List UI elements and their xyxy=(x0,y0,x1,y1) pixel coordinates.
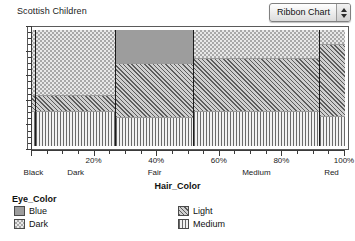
mosaic-plot[interactable] xyxy=(31,30,345,146)
x-axis-tick xyxy=(266,150,267,154)
x-axis-tick xyxy=(250,150,251,154)
y-axis-tick xyxy=(28,88,32,89)
x-axis xyxy=(31,150,345,156)
chart-type-value: Ribbon Chart xyxy=(270,4,336,21)
mosaic-column-dark[interactable] xyxy=(36,30,116,146)
y-axis xyxy=(27,26,32,150)
chart-type-stepper[interactable] xyxy=(336,4,350,21)
legend-label-light: Light xyxy=(193,206,213,216)
legend-column-right: LightMedium xyxy=(178,205,225,231)
y-axis-tick xyxy=(28,38,32,39)
x-axis-tick xyxy=(109,150,110,154)
mosaic-cell-dark-medium[interactable] xyxy=(36,112,115,146)
x-axis-tick xyxy=(62,150,63,154)
y-axis-tick xyxy=(28,106,32,107)
y-axis-tick xyxy=(28,57,32,58)
mosaic-cell-fair-medium[interactable] xyxy=(116,118,194,146)
x-category-label-dark: Dark xyxy=(67,168,84,177)
mosaic-cell-fair-blue[interactable] xyxy=(116,30,194,64)
x-tick-label-100: 100% xyxy=(334,156,354,165)
mosaic-cell-red-light[interactable] xyxy=(320,45,345,117)
x-axis-tick xyxy=(313,150,314,154)
legend-swatch-dark xyxy=(14,219,25,229)
x-axis-title: Hair_Color xyxy=(0,181,355,191)
legend-title: Eye_Color xyxy=(12,194,57,204)
y-axis-tick xyxy=(28,69,32,70)
y-axis-tick xyxy=(28,32,32,33)
x-axis-tick xyxy=(31,150,32,156)
legend-label-medium: Medium xyxy=(193,219,225,229)
x-category-label-red: Red xyxy=(324,168,339,177)
triangle-up-icon[interactable] xyxy=(341,8,347,12)
y-axis-tick xyxy=(28,118,32,119)
page-title: Scottish Children xyxy=(17,6,87,16)
x-axis-tick xyxy=(188,150,189,154)
chart-type-dropdown[interactable]: Ribbon Chart xyxy=(269,3,351,22)
legend-item-light[interactable]: Light xyxy=(178,205,225,217)
y-axis-tick xyxy=(28,143,32,144)
y-axis-tick xyxy=(28,137,32,138)
legend-swatch-light xyxy=(178,206,189,216)
y-axis-tick xyxy=(26,51,32,52)
mosaic-column-red[interactable] xyxy=(320,30,345,146)
y-axis-tick xyxy=(26,100,32,101)
triangle-down-icon[interactable] xyxy=(341,14,347,18)
legend-column-left: BlueDark xyxy=(14,205,48,231)
mosaic-column-fair[interactable] xyxy=(116,30,195,146)
mosaic-cell-medium-medium[interactable] xyxy=(194,112,319,146)
x-tick-label-60: 60% xyxy=(211,156,227,165)
x-axis-tick xyxy=(172,150,173,154)
mosaic-cell-red-medium[interactable] xyxy=(320,117,345,146)
x-tick-label-80: 80% xyxy=(273,156,289,165)
y-axis-tick xyxy=(28,44,32,45)
chart-header: Scottish Children Ribbon Chart xyxy=(0,0,355,26)
x-tick-label-20: 20% xyxy=(86,156,102,165)
y-axis-tick xyxy=(26,124,32,125)
y-axis-tick xyxy=(28,94,32,95)
legend-item-medium[interactable]: Medium xyxy=(178,218,225,230)
legend-item-blue[interactable]: Blue xyxy=(14,205,48,217)
mosaic-column-medium[interactable] xyxy=(194,30,320,146)
mosaic-cell-medium-light[interactable] xyxy=(194,59,319,112)
legend-swatch-medium xyxy=(178,219,189,229)
mosaic-cell-dark-light[interactable] xyxy=(36,96,115,112)
mosaic-cell-red-dark[interactable] xyxy=(320,30,345,45)
y-axis-tick xyxy=(28,131,32,132)
x-category-label-black: Black xyxy=(24,168,44,177)
x-axis-tick xyxy=(297,150,298,154)
x-tick-label-40: 40% xyxy=(148,156,164,165)
y-axis-tick xyxy=(28,112,32,113)
legend-swatch-blue xyxy=(14,206,25,216)
legend-item-dark[interactable]: Dark xyxy=(14,218,48,230)
legend: Eye_Color BlueDark LightMedium xyxy=(12,194,355,236)
x-category-label-medium: Medium xyxy=(242,168,270,177)
mosaic-cell-medium-dark[interactable] xyxy=(194,30,319,59)
x-category-label-fair: Fair xyxy=(148,168,162,177)
legend-label-dark: Dark xyxy=(29,219,48,229)
x-axis-tick xyxy=(125,150,126,154)
x-axis-tick xyxy=(234,150,235,154)
mosaic-cell-fair-light[interactable] xyxy=(116,64,194,119)
legend-label-blue: Blue xyxy=(29,206,47,216)
x-axis-tick xyxy=(328,150,329,154)
y-axis-tick xyxy=(28,63,32,64)
x-axis-tick xyxy=(47,150,48,154)
y-axis-tick xyxy=(26,26,32,27)
x-axis-tick xyxy=(78,150,79,154)
y-axis-tick xyxy=(28,81,32,82)
mosaic-cell-dark-dark[interactable] xyxy=(36,30,115,96)
x-axis-tick xyxy=(141,150,142,154)
x-axis-tick xyxy=(203,150,204,154)
y-axis-tick xyxy=(26,75,32,76)
